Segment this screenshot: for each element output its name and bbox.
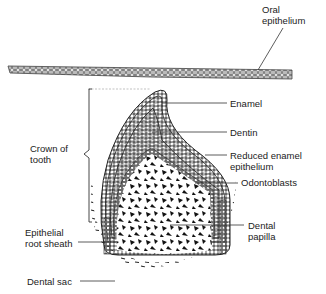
- dental-sac-label: Dental sac: [27, 276, 72, 287]
- root-sheath-right: [220, 200, 226, 254]
- oral-epithelium-leader: [258, 28, 283, 70]
- oral-epithelium-band: [8, 66, 292, 79]
- dental-papilla-label: Dental papilla: [248, 220, 275, 242]
- crown-of-tooth-label: Crown of tooth: [30, 143, 68, 165]
- enamel-label: Enamel: [230, 98, 262, 109]
- root-sheath-left: [104, 218, 110, 254]
- tooth-development-diagram: Oral epithelium Enamel Dentin Reduced en…: [0, 0, 326, 294]
- oral-epithelium-label: Oral epithelium: [262, 4, 305, 26]
- odontoblasts-label: Odontoblasts: [241, 177, 297, 188]
- reduced-enamel-epithelium-label: Reduced enamel epithelium: [230, 150, 302, 172]
- epithelial-root-sheath-label: Epithelial root sheath: [25, 227, 73, 249]
- dentin-label: Dentin: [230, 127, 257, 138]
